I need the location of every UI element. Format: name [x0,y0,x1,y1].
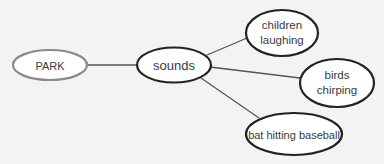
edge-sounds-bat [201,78,259,118]
edge-sounds-children [207,38,247,55]
node-children-line2: laughing [260,33,303,48]
node-bat-label: bat hitting baseball [248,128,340,143]
node-birds-label: birds chirping [317,68,357,98]
node-park-label: PARK [35,59,64,74]
edge-sounds-birds [210,67,300,78]
concept-web-diagram: PARK sounds children laughing birds chir… [0,0,384,164]
node-children-label: children laughing [260,18,303,48]
node-sounds-label: sounds [153,58,195,73]
node-birds-line2: chirping [317,83,357,98]
node-birds-line1: birds [317,68,357,83]
node-children-line1: children [260,18,303,33]
